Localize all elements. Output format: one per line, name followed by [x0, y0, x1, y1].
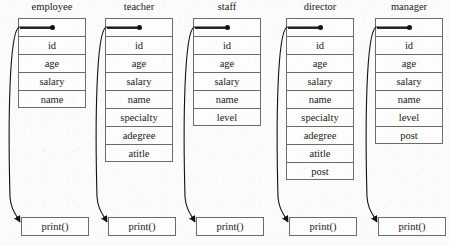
attribute-row: age: [19, 55, 85, 73]
pointer-dot-icon: [407, 25, 412, 30]
method-box-director: print(): [289, 217, 357, 236]
class-title-staff: staff: [193, 0, 261, 13]
attribute-row: adegree: [287, 127, 353, 145]
method-box-teacher: print(): [108, 217, 176, 236]
attribute-row: salary: [194, 73, 260, 91]
attribute-row: post: [376, 127, 442, 145]
method-box-manager: print(): [378, 217, 446, 236]
method-box-employee: print(): [21, 217, 89, 236]
attribute-row: id: [19, 37, 85, 55]
attribute-row: level: [376, 109, 442, 127]
class-body-teacher: idagesalarynamespecialtyadegreeatitle: [105, 18, 173, 162]
class-title-director: director: [286, 0, 354, 13]
pointer-row-director: [287, 19, 353, 37]
attribute-row: salary: [376, 73, 442, 91]
pointer-row-teacher: [106, 19, 172, 37]
attribute-row: age: [287, 55, 353, 73]
class-title-employee: employee: [18, 0, 86, 13]
pointer-line-icon: [195, 27, 228, 29]
attribute-row: id: [194, 37, 260, 55]
pointer-line-icon: [20, 27, 53, 29]
pointer-row-employee: [19, 19, 85, 37]
attribute-row: name: [194, 91, 260, 109]
attribute-row: age: [106, 55, 172, 73]
class-body-staff: idagesalarynamelevel: [193, 18, 261, 126]
attribute-row: post: [287, 163, 353, 181]
pointer-dot-icon: [225, 25, 230, 30]
pointer-line-icon: [107, 27, 140, 29]
class-body-employee: idagesalaryname: [18, 18, 86, 108]
class-title-teacher: teacher: [105, 0, 173, 13]
class-title-manager: manager: [375, 0, 443, 13]
attribute-row: atitle: [106, 145, 172, 163]
attribute-row: adegree: [106, 127, 172, 145]
attribute-row: specialty: [106, 109, 172, 127]
attribute-row: salary: [19, 73, 85, 91]
attribute-row: name: [19, 91, 85, 109]
attribute-row: age: [376, 55, 442, 73]
pointer-dot-icon: [137, 25, 142, 30]
method-box-staff: print(): [196, 217, 264, 236]
attribute-row: salary: [106, 73, 172, 91]
attribute-row: atitle: [287, 145, 353, 163]
pointer-line-icon: [288, 27, 321, 29]
class-diagram-canvas: employeeidagesalarynameprint()teacherida…: [0, 0, 449, 246]
attribute-row: id: [287, 37, 353, 55]
pointer-dot-icon: [50, 25, 55, 30]
pointer-row-staff: [194, 19, 260, 37]
pointer-row-manager: [376, 19, 442, 37]
attribute-row: specialty: [287, 109, 353, 127]
attribute-row: level: [194, 109, 260, 127]
attribute-row: salary: [287, 73, 353, 91]
class-body-director: idagesalarynamespecialtyadegreeatitlepos…: [286, 18, 354, 180]
attribute-row: name: [106, 91, 172, 109]
attribute-row: id: [376, 37, 442, 55]
pointer-line-icon: [377, 27, 410, 29]
attribute-row: name: [376, 91, 442, 109]
attribute-row: id: [106, 37, 172, 55]
class-body-manager: idagesalarynamelevelpost: [375, 18, 443, 144]
attribute-row: age: [194, 55, 260, 73]
pointer-dot-icon: [318, 25, 323, 30]
attribute-row: name: [287, 91, 353, 109]
